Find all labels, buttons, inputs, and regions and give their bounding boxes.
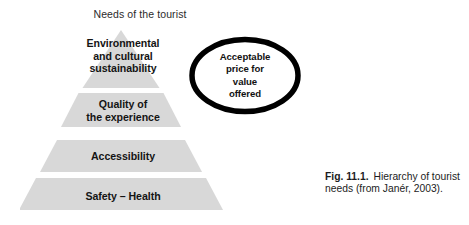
pyramid-tier-3-label: Accessibility <box>43 150 203 163</box>
figure-hierarchy-of-tourist-needs: Needs of the tourist Environmental and c… <box>0 0 469 225</box>
pyramid-tier-2-label: Quality of the experience <box>43 98 203 123</box>
pyramid-tier-4-label: Safety – Health <box>43 190 203 203</box>
price-callout-label: Acceptable price for value offered <box>202 51 288 100</box>
price-callout: Acceptable price for value offered <box>188 36 302 115</box>
pyramid-top-label: Needs of the tourist <box>40 8 240 21</box>
pyramid-tier-1-label: Environmental and cultural sustainabilit… <box>38 37 208 75</box>
figure-caption-number: Fig. 11.1. <box>325 171 369 182</box>
figure-caption: Fig. 11.1.Hierarchy of tourist needs (fr… <box>325 171 465 196</box>
